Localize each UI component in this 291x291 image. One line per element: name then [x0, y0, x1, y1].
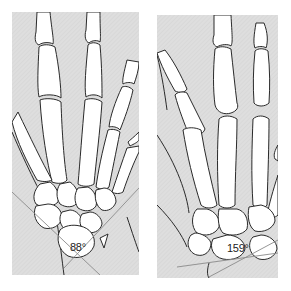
angle-label-159: 159° — [227, 242, 249, 254]
left-hand-skeleton-drawing — [12, 12, 139, 275]
hand-xray-comparison-figure: 88° — [0, 0, 291, 291]
right-hand-skeleton-drawing — [157, 15, 278, 278]
left-hand-panel: 88° — [12, 12, 139, 275]
right-hand-panel: 159° — [157, 15, 278, 278]
angle-label-88: 88° — [70, 241, 86, 253]
